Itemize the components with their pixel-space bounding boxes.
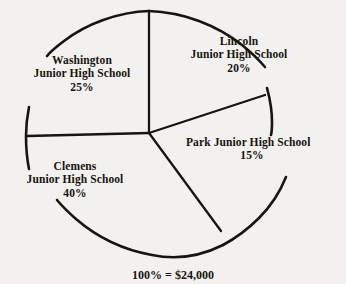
slice-percent-park: 15% — [186, 149, 318, 162]
slice-label-washington: Washington Junior High School 25% — [8, 54, 156, 94]
slice-percent-lincoln: 20% — [176, 62, 302, 75]
arc-upper-right-stub — [267, 88, 272, 135]
slice-percent-washington: 25% — [8, 81, 156, 94]
slice-label-park: Park Junior High School 15% — [186, 136, 344, 163]
radius-clemens-washington — [27, 133, 149, 136]
arc-bottom — [57, 200, 223, 257]
slice-label-washington-line2: Junior High School — [8, 67, 156, 80]
slice-percent-clemens: 40% — [2, 187, 148, 200]
slice-label-lincoln: Lincoln Junior High School 20% — [176, 35, 302, 75]
radius-lincoln-park — [149, 95, 265, 133]
slice-label-clemens: Clemens Junior High School 40% — [2, 160, 148, 200]
slice-label-clemens-line1: Clemens — [2, 160, 148, 173]
slice-label-clemens-line2: Junior High School — [2, 173, 148, 186]
slice-label-lincoln-line1: Lincoln — [176, 35, 302, 48]
slice-label-park-line1: Park Junior High School — [186, 136, 344, 149]
slice-label-lincoln-line2: Junior High School — [176, 48, 302, 61]
chart-total-caption: 100% = $24,000 — [0, 268, 346, 283]
slice-label-washington-line1: Washington — [8, 54, 156, 67]
arc-lower-right — [223, 177, 286, 245]
pie-chart-figure: Lincoln Junior High School 20% Washingto… — [0, 0, 346, 284]
arc-top-left — [47, 11, 149, 56]
